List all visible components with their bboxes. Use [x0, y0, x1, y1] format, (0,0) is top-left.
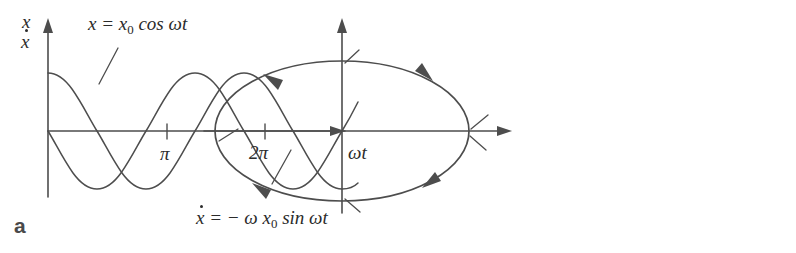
panel-b-phase-portrait: v x ωx0 x0 t = 3π2ω t = πω t = T = 2πω t… — [396, 0, 796, 253]
leader-line-right-zero — [470, 136, 486, 150]
panel-b-svg — [0, 0, 796, 253]
panel-b-x-axis-arrow — [497, 126, 512, 136]
arrow-lower-right — [422, 172, 441, 188]
leader-line-right-T — [471, 115, 488, 129]
panel-b-v-axis-arrow — [337, 18, 347, 33]
harmonic-oscillator-figure: x x x = x0 cos ωt x = − ω x0 sin ωt π 2π… — [0, 0, 796, 253]
arrow-upper-left — [263, 74, 283, 90]
